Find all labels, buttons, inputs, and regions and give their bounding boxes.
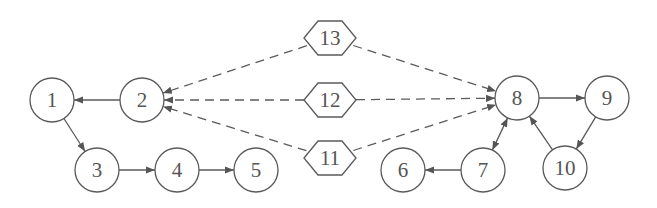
node-9: 9 [585,76,629,120]
node-label: 4 [172,158,183,182]
node-label: 1 [47,88,58,112]
node-2: 2 [120,78,164,122]
node-8: 8 [495,76,539,120]
edge-10-to-8 [529,116,552,150]
node-label: 3 [92,158,103,182]
node-5: 5 [234,148,278,192]
node-13: 13 [304,21,356,55]
graph-diagram: 12345678910111213 [0,0,657,208]
edge-13-to-8 [353,46,496,92]
edge-11-to-2 [163,107,307,151]
node-3: 3 [75,148,119,192]
node-7: 7 [461,148,505,192]
node-1: 1 [30,78,74,122]
graph-svg: 12345678910111213 [0,0,657,208]
edge-7-to-8 [492,118,507,150]
node-label: 7 [478,158,489,182]
node-label: 10 [555,156,576,180]
edge-13-to-2 [163,46,307,93]
node-label: 8 [512,86,523,110]
node-label: 12 [320,88,341,112]
node-label: 13 [320,26,341,50]
edge-9-to-10 [576,117,595,149]
node-11: 11 [304,141,356,175]
node-4: 4 [155,148,199,192]
node-label: 5 [251,158,262,182]
nodes-layer: 12345678910111213 [30,21,629,192]
node-label: 11 [320,146,340,170]
node-label: 2 [137,88,148,112]
node-label: 6 [398,158,409,182]
edge-12-to-8 [356,98,495,100]
edge-1-to-3 [64,119,85,152]
node-label: 9 [602,86,613,110]
node-10: 10 [543,146,587,190]
node-6: 6 [381,148,425,192]
edge-11-to-8 [353,105,496,151]
node-12: 12 [304,83,356,117]
